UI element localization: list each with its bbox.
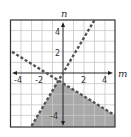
x-axis-label: m bbox=[118, 68, 127, 79]
x-tick-label: -4 bbox=[14, 76, 22, 85]
x-tick-label: -2 bbox=[35, 76, 43, 85]
y-tick-label: 4 bbox=[55, 28, 60, 37]
y-tick-label: 2 bbox=[55, 49, 60, 58]
inequality-graph: -4 -2 2 4 4 2 -4 n m bbox=[0, 0, 131, 137]
y-axis-arrow-up-icon bbox=[61, 22, 65, 27]
x-axis-arrow-right-icon bbox=[108, 71, 113, 75]
y-axis-label: n bbox=[61, 8, 67, 19]
y-tick-label: -4 bbox=[50, 112, 58, 121]
x-tick-label: 4 bbox=[102, 76, 107, 85]
x-tick-label: 2 bbox=[81, 76, 86, 85]
x-axis-arrow-left-icon bbox=[12, 71, 17, 75]
